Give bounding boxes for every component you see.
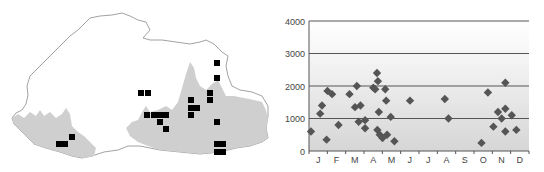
y-tick-label: 4000 bbox=[285, 17, 305, 27]
occurrence-marker bbox=[207, 97, 213, 103]
x-tick-label: A bbox=[370, 155, 376, 165]
y-tick-label: 1000 bbox=[285, 114, 305, 124]
occurrence-marker bbox=[214, 75, 220, 81]
occurrence-marker bbox=[163, 112, 169, 118]
distribution-map bbox=[0, 0, 272, 172]
occurrence-marker bbox=[151, 112, 157, 118]
elevation-by-month-chart: 01000200030004000 JFMAMJJASOND bbox=[272, 0, 544, 172]
x-tick-label: N bbox=[498, 155, 505, 165]
occurrence-marker bbox=[214, 141, 220, 147]
occurrence-marker bbox=[163, 126, 169, 132]
occurrence-marker bbox=[220, 149, 226, 155]
occurrence-marker bbox=[220, 141, 226, 147]
map-svg bbox=[0, 0, 272, 172]
x-tick-label: A bbox=[443, 155, 449, 165]
x-tick-label: O bbox=[480, 155, 487, 165]
y-tick-labels: 01000200030004000 bbox=[285, 17, 305, 157]
occurrence-marker bbox=[157, 112, 163, 118]
occurrence-marker bbox=[62, 141, 68, 147]
occurrence-marker bbox=[188, 112, 194, 118]
occurrence-marker bbox=[69, 134, 75, 140]
x-tick-label: M bbox=[351, 155, 359, 165]
occurrence-marker bbox=[138, 90, 144, 96]
x-tick-label: J bbox=[316, 155, 321, 165]
occurrence-marker bbox=[157, 119, 163, 125]
chart-svg: 01000200030004000 JFMAMJJASOND bbox=[272, 0, 544, 172]
occurrence-marker bbox=[214, 119, 220, 125]
y-tick-label: 0 bbox=[300, 147, 305, 157]
occurrence-marker bbox=[214, 60, 220, 66]
y-tick-label: 3000 bbox=[285, 49, 305, 59]
x-tick-label: S bbox=[462, 155, 468, 165]
y-tick-label: 2000 bbox=[285, 82, 305, 92]
x-tick-label: D bbox=[517, 155, 524, 165]
occurrence-marker bbox=[145, 90, 151, 96]
occurrence-marker bbox=[194, 105, 200, 111]
occurrence-marker bbox=[214, 149, 220, 155]
occurrence-marker bbox=[56, 141, 62, 147]
occurrence-marker bbox=[188, 105, 194, 111]
x-tick-label: J bbox=[408, 155, 413, 165]
x-tick-label: J bbox=[426, 155, 431, 165]
occurrence-marker bbox=[144, 112, 150, 118]
x-tick-label: M bbox=[388, 155, 396, 165]
x-tick-label: F bbox=[334, 155, 340, 165]
occurrence-marker bbox=[188, 97, 194, 103]
occurrence-marker bbox=[207, 90, 213, 96]
x-tick-labels: JFMAMJJASOND bbox=[316, 155, 524, 165]
